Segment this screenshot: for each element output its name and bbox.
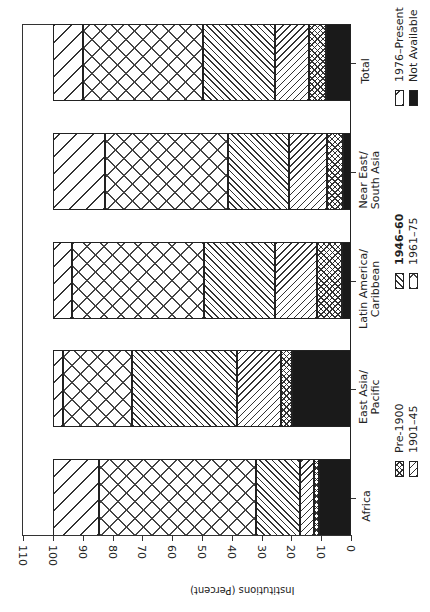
category-tick xyxy=(351,172,356,173)
tick-label: 40 xyxy=(225,545,238,559)
bar-segment-solid-black xyxy=(292,350,351,427)
bar-segment-fine-crosshatch xyxy=(309,24,326,101)
category-label: East Asia/Pacific xyxy=(358,370,382,424)
bar-segment-diagonal-dense xyxy=(132,350,237,427)
category-label: Near East/South Asia xyxy=(358,150,382,209)
bar-segment-large-crosshatch xyxy=(105,133,228,210)
legend-swatch-diagonal-sparse xyxy=(409,461,418,477)
legend-label: Pre-1900 xyxy=(393,404,406,453)
bar-segment-large-crosshatch xyxy=(72,242,204,319)
category-label: Latin America/Caribbean xyxy=(358,249,382,329)
legend-label: 1946–60 xyxy=(393,214,406,265)
tick-mark xyxy=(142,535,143,541)
category-label: Africa xyxy=(360,490,372,521)
legend-label: 1961–75 xyxy=(407,218,420,266)
stacked-bar-chart: 0102030405060708090100110 Institutions (… xyxy=(0,0,430,612)
bar-segment-diagonal-sparse xyxy=(237,350,281,427)
tick-mark xyxy=(113,535,114,541)
tick-label: 100 xyxy=(46,545,59,566)
category-tick xyxy=(351,281,356,282)
bar-segment-fine-crosshatch xyxy=(317,242,342,319)
bar-segment-diagonal-wide xyxy=(53,459,99,536)
bar-segment-diagonal-dense xyxy=(228,133,290,210)
bar-segment-diagonal-dense xyxy=(204,242,275,319)
tick-label: 110 xyxy=(16,545,29,566)
legend-label: Not Available xyxy=(407,9,420,82)
tick-mark xyxy=(262,535,263,541)
legend-label: 1901–45 xyxy=(407,406,420,454)
category-label: Total xyxy=(360,58,372,84)
bar-segment-diagonal-sparse xyxy=(300,459,313,536)
axis-title: Institutions (Percent) xyxy=(190,585,294,596)
tick-label: 10 xyxy=(314,545,327,559)
bar-segment-solid-black xyxy=(319,459,351,536)
tick-mark xyxy=(172,535,173,541)
bar-segment-large-crosshatch xyxy=(83,24,203,101)
bar-segment-diagonal-wide xyxy=(53,24,83,101)
tick-mark xyxy=(83,535,84,541)
tick-label: 50 xyxy=(195,545,208,559)
tick-label: 0 xyxy=(344,545,357,552)
bar-segment-fine-crosshatch xyxy=(281,350,292,427)
tick-mark xyxy=(291,535,292,541)
category-tick xyxy=(351,389,356,390)
axis-line xyxy=(22,535,352,536)
bar-segment-large-crosshatch xyxy=(99,459,255,536)
tick-label: 90 xyxy=(76,545,89,559)
tick-label: 70 xyxy=(135,545,148,559)
bar-segment-solid-black xyxy=(343,133,351,210)
legend-swatch-fine-crosshatch xyxy=(395,461,404,477)
bar-segment-diagonal-dense xyxy=(203,24,275,101)
tick-label: 30 xyxy=(255,545,268,559)
category-tick xyxy=(351,63,356,64)
bar-segment-diagonal-sparse xyxy=(275,24,309,101)
bar-segment-large-crosshatch xyxy=(63,350,132,427)
bar-segment-fine-crosshatch xyxy=(327,133,342,210)
legend-label: 1976–Present xyxy=(393,7,406,82)
tick-label: 80 xyxy=(106,545,119,559)
bar-segment-diagonal-wide xyxy=(53,242,72,319)
tick-mark xyxy=(351,535,352,541)
bar-segment-diagonal-wide xyxy=(53,133,105,210)
bar-segment-solid-black xyxy=(326,24,351,101)
bar-segment-diagonal-sparse xyxy=(289,133,327,210)
legend-swatch-large-crosshatch xyxy=(409,273,418,289)
tick-mark xyxy=(321,535,322,541)
tick-mark xyxy=(202,535,203,541)
tick-label: 20 xyxy=(284,545,297,559)
legend-swatch-diagonal-dense xyxy=(395,273,404,289)
tick-mark xyxy=(53,535,54,541)
bar-segment-diagonal-wide xyxy=(53,350,63,427)
tick-label: 60 xyxy=(165,545,178,559)
legend-swatch-solid-black xyxy=(409,90,418,106)
tick-mark xyxy=(232,535,233,541)
legend-swatch-diagonal-wide xyxy=(395,90,404,106)
bar-segment-fine-crosshatch xyxy=(314,459,319,536)
bar-segment-diagonal-dense xyxy=(256,459,301,536)
category-tick xyxy=(351,498,356,499)
bar-segment-solid-black xyxy=(342,242,351,319)
bar-segment-diagonal-sparse xyxy=(275,242,316,319)
tick-mark xyxy=(23,535,24,541)
